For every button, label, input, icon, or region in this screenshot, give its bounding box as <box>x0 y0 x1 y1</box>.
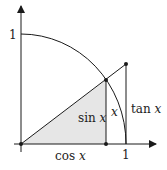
origin-point <box>19 142 23 146</box>
tan-fn: tan <box>131 102 151 116</box>
tan-var: x <box>155 102 162 116</box>
x-one-label: 1 <box>122 148 130 162</box>
cos-foot-point <box>104 142 108 146</box>
cos-label: cos x <box>55 149 86 163</box>
arc-length-label: x <box>111 105 118 119</box>
y-one-label: 1 <box>9 28 17 42</box>
sin-label: sin x <box>78 111 107 125</box>
cos-var: x <box>79 149 86 163</box>
circle-point <box>104 78 108 82</box>
sin-var: x <box>100 111 107 125</box>
tan-label: tan x <box>131 102 162 116</box>
cos-fn: cos <box>55 149 75 163</box>
trig-diagram: 1 1 sin x cos x tan x x <box>0 0 167 170</box>
sin-fn: sin <box>78 111 96 125</box>
tan-point <box>124 62 128 66</box>
